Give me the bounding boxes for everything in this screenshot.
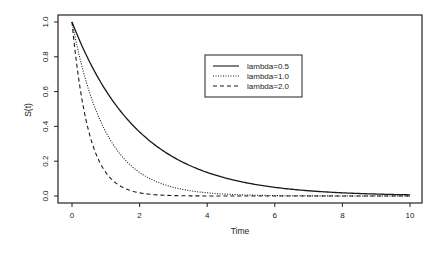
y-tick-label: 1.0 <box>41 16 50 28</box>
y-tick-label: 0.4 <box>41 120 50 132</box>
y-tick-label: 0.2 <box>41 155 50 167</box>
y-tick-label: 0.6 <box>41 85 50 97</box>
plot-frame <box>58 15 422 203</box>
legend-label: lambda=2.0 <box>247 82 290 91</box>
x-tick-label: 4 <box>205 211 210 220</box>
y-tick-label: 0.8 <box>41 51 50 63</box>
x-tick-label: 2 <box>137 211 142 220</box>
legend-label: lambda=1.0 <box>247 72 290 81</box>
x-tick-label: 0 <box>70 211 75 220</box>
series-layer <box>72 22 410 196</box>
y-tick-label: 0.0 <box>41 190 50 202</box>
legend-label: lambda=0.5 <box>247 62 290 71</box>
x-tick-label: 8 <box>340 211 345 220</box>
x-axis-title: Time <box>231 226 250 236</box>
x-axis: 0246810 <box>70 203 415 220</box>
x-tick-label: 10 <box>406 211 415 220</box>
x-tick-label: 6 <box>273 211 278 220</box>
series-line-lambda-1-0 <box>72 22 410 196</box>
series-line-lambda-2-0 <box>72 22 410 196</box>
legend: lambda=0.5lambda=1.0lambda=2.0 <box>205 55 302 97</box>
series-line-lambda-0-5 <box>72 22 410 195</box>
y-axis-title: S(t) <box>23 103 33 117</box>
survival-chart: 0246810 0.00.20.40.60.81.0 Time S(t) lam… <box>0 0 444 255</box>
y-axis: 0.00.20.40.60.81.0 <box>41 16 58 202</box>
